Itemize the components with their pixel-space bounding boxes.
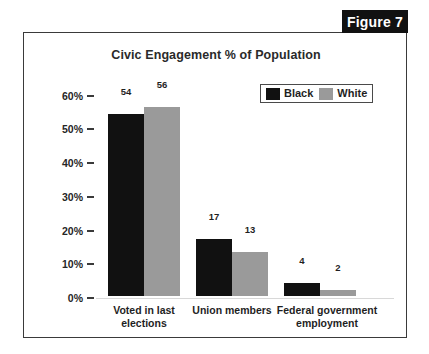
y-axis-tick-label-0: 0% (68, 292, 83, 304)
y-axis-tick-dash (87, 230, 94, 232)
bar-wrap-voted-white: 56 (144, 76, 180, 296)
y-axis-tick-label-30: 30% (62, 191, 83, 203)
y-axis-tick-50: 50% (34, 122, 94, 136)
y-axis-tick-30: 30% (34, 190, 94, 204)
x-axis-baseline (96, 298, 394, 299)
bar-union-black[interactable] (196, 239, 232, 296)
y-axis-tick-dash (87, 95, 94, 97)
figure-number-label: Figure 7 (347, 15, 403, 29)
bar-voted-white[interactable] (144, 107, 180, 296)
bar-voted-black[interactable] (108, 114, 144, 296)
bar-value-federal-black: 4 (299, 256, 304, 266)
y-axis-tick-10: 10% (34, 257, 94, 271)
bar-union-white[interactable] (232, 252, 268, 296)
bar-federal-black[interactable] (284, 283, 320, 296)
bar-wrap-federal-black: 4 (284, 76, 320, 296)
plot-area: 60% 50% 40% 30% 20% 10% 0% (24, 33, 406, 337)
y-axis-tick-label-20: 20% (62, 225, 83, 237)
y-axis-tick-label-50: 50% (62, 123, 83, 135)
y-axis-tick-label-60: 60% (62, 90, 83, 102)
bar-group-federal: 4 2 (280, 76, 360, 296)
bar-group-voted: 54 56 (104, 76, 184, 296)
bar-wrap-federal-white: 2 (320, 76, 356, 296)
chart-frame: Civic Engagement % of Population 60% 50%… (23, 32, 407, 338)
category-label-federal: Federal government employment (264, 304, 390, 330)
category-label-federal-line2: employment (264, 317, 390, 330)
bar-group-union: 17 13 (192, 76, 272, 296)
y-axis-tick-dash (87, 263, 94, 265)
bar-federal-white[interactable] (320, 290, 356, 296)
bar-value-union-black: 17 (209, 212, 220, 222)
y-axis-tick-40: 40% (34, 156, 94, 170)
y-axis-tick-60: 60% (34, 89, 94, 103)
bar-value-union-white: 13 (245, 225, 256, 235)
bar-value-voted-white: 56 (157, 80, 168, 90)
y-axis-tick-0: 0% (34, 291, 94, 305)
y-axis-tick-dash (87, 162, 94, 164)
y-axis-tick-dash (87, 297, 94, 299)
bar-value-voted-black: 54 (121, 87, 132, 97)
y-axis-tick-dash (87, 128, 94, 130)
category-label-voted-line2: elections (92, 317, 196, 330)
y-axis-tick-20: 20% (34, 224, 94, 238)
bar-wrap-union-black: 17 (196, 76, 232, 296)
y-axis-tick-label-10: 10% (62, 258, 83, 270)
bar-value-federal-white: 2 (335, 263, 340, 273)
y-axis-tick-label-40: 40% (62, 157, 83, 169)
bar-wrap-voted-black: 54 (108, 76, 144, 296)
figure-number-tab: Figure 7 (342, 10, 408, 33)
y-axis-tick-dash (87, 196, 94, 198)
category-label-federal-line1: Federal government (264, 304, 390, 317)
bar-wrap-union-white: 13 (232, 76, 268, 296)
